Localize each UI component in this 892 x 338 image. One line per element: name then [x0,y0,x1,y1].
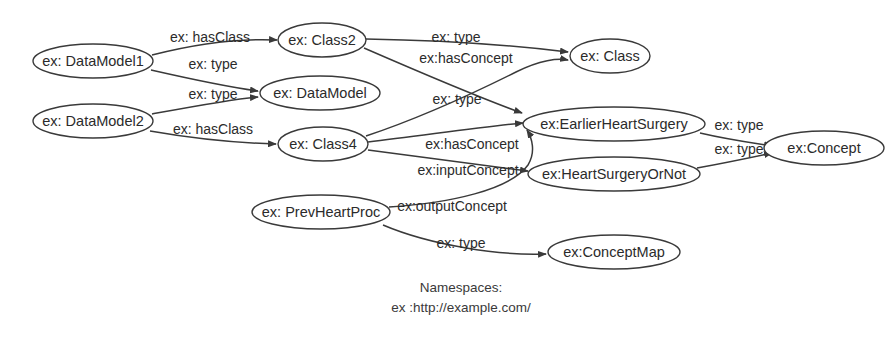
node-label-datamodel2: ex: DataModel2 [42,113,144,129]
edge-e1: ex: hasClass [152,29,277,55]
edge-label-e7: ex: type [432,91,481,107]
edge-label-e12: ex: type [714,117,763,133]
node-class[interactable]: ex: Class [570,39,650,73]
namespaces-label: Namespaces: [420,280,503,295]
edge-e9: ex:inputConcept [368,150,528,178]
node-class2[interactable]: ex: Class2 [278,23,366,57]
edge-label-e1: ex: hasClass [170,29,250,45]
namespace-prefix-uri: ex :http://example.com/ [391,300,531,315]
node-label-class: ex: Class [580,48,640,64]
edge-label-e5: ex: type [431,29,480,45]
edge-label-e8: ex:hasConcept [425,136,519,152]
node-datamodel[interactable]: ex: DataModel [260,76,380,110]
node-conceptmap[interactable]: ex:ConceptMap [548,235,680,269]
edge-label-e11: ex: type [436,235,485,251]
node-label-earlierheartsurgery: ex:EarlierHeartSurgery [540,116,688,132]
node-label-datamodel1: ex: DataModel1 [42,53,144,69]
edge-e3: ex: type [152,86,258,114]
edges-layer: ex: hasClassex: typeex: typeex: hasClass… [150,29,772,255]
edge-label-e9: ex:inputConcept [417,162,518,178]
node-label-heartsurgeryornot: ex:HeartSurgeryOrNot [542,166,686,182]
edge-e13: ex: type [697,141,772,168]
node-concept[interactable]: ex:Concept [764,131,884,165]
node-class4[interactable]: ex: Class4 [278,127,368,161]
node-earlierheartsurgery[interactable]: ex:EarlierHeartSurgery [523,107,705,141]
node-label-class4: ex: Class4 [289,136,357,152]
edge-e5: ex: type [366,29,568,52]
node-datamodel2[interactable]: ex: DataModel2 [33,104,153,138]
node-heartsurgeryornot[interactable]: ex:HeartSurgeryOrNot [528,157,700,191]
node-label-prevheartproc: ex: PrevHeartProc [262,204,380,220]
edge-label-e13: ex: type [714,141,763,157]
graph-diagram-canvas: ex: hasClassex: typeex: typeex: hasClass… [0,0,892,338]
edge-label-e3: ex: type [188,86,237,102]
edge-e11: ex: type [383,225,546,254]
node-datamodel1[interactable]: ex: DataModel1 [33,44,153,78]
node-label-datamodel: ex: DataModel [273,85,367,101]
edge-label-e10: ex:outputConcept [397,198,507,214]
edge-label-e4: ex: hasClass [173,121,253,137]
node-label-conceptmap: ex:ConceptMap [563,244,665,260]
edge-label-e6: ex:hasConcept [419,50,513,66]
node-label-concept: ex:Concept [787,140,860,156]
node-label-class2: ex: Class2 [288,32,356,48]
edge-label-e2: ex: type [188,56,237,72]
edge-e4: ex: hasClass [150,121,276,144]
namespaces-caption: Namespaces: ex :http://example.com/ [391,280,531,315]
node-prevheartproc[interactable]: ex: PrevHeartProc [252,195,390,229]
